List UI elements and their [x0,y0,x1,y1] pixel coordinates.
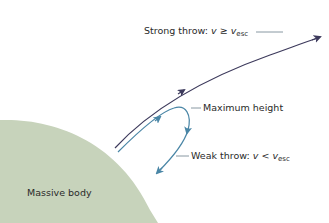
weak-throw-label: Weak throw: v < vesc [191,151,290,163]
max-height-label: Maximum height [203,103,283,113]
weak-throw-path [118,107,189,172]
massive-body [0,120,158,223]
weak-sub: esc [278,155,290,163]
weak-prefix: Weak throw: [191,150,250,161]
strong-sub: esc [236,30,248,38]
strong-prefix: Strong throw: [144,25,208,36]
weak-op: < [261,150,269,161]
strong-var: v [211,25,217,36]
massive-body-label: Massive body [27,188,92,198]
weak-throw-arrow-end [157,168,162,173]
strong-op: ≥ [220,25,228,36]
strong-throw-path [115,38,318,148]
strong-throw-arrow-mid [178,90,184,94]
strong-throw-arrow-end [312,37,320,40]
weak-var: v [253,150,259,161]
strong-throw-label: Strong throw: v ≥ vesc [144,26,248,38]
